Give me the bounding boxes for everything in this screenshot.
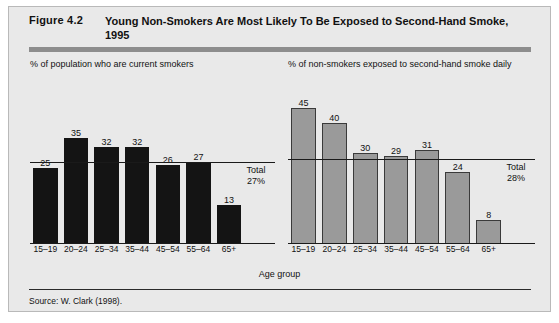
bar[interactable]: 29 bbox=[384, 156, 409, 244]
chart-panel-nonsmokers: % of non-smokers exposed to second-hand … bbox=[283, 59, 535, 259]
total-annotation-right: Total 28% bbox=[499, 162, 533, 184]
plot-area-left: 25353232262713 Total 27% bbox=[30, 79, 275, 244]
bar-value-label: 30 bbox=[354, 143, 377, 153]
bar[interactable]: 8 bbox=[476, 220, 501, 244]
x-tick-label: 20–24 bbox=[319, 244, 350, 258]
source-divider bbox=[29, 289, 531, 290]
x-tick-label: 25–34 bbox=[91, 244, 122, 258]
bar-value-label: 24 bbox=[446, 162, 469, 172]
bar[interactable]: 13 bbox=[217, 205, 242, 244]
x-tick-label: 35–44 bbox=[381, 244, 412, 258]
x-tick-label: 55–64 bbox=[442, 244, 473, 258]
bar[interactable]: 45 bbox=[291, 108, 316, 244]
total-value-left: 27% bbox=[239, 176, 273, 187]
bar-value-label: 25 bbox=[34, 158, 57, 168]
x-tick-label: 45–54 bbox=[412, 244, 443, 258]
total-annotation-left: Total 27% bbox=[239, 165, 273, 187]
x-tick-label: 45–54 bbox=[153, 244, 184, 258]
bar-slot: 29 bbox=[381, 99, 412, 244]
bar-value-label: 32 bbox=[95, 137, 118, 147]
total-value-right: 28% bbox=[499, 173, 533, 184]
bar-slot: 40 bbox=[319, 99, 350, 244]
total-label-left: Total bbox=[239, 165, 273, 176]
bar-value-label: 32 bbox=[126, 137, 149, 147]
header-divider bbox=[29, 47, 531, 52]
bar[interactable]: 27 bbox=[186, 162, 211, 244]
total-label-right: Total bbox=[499, 162, 533, 173]
bar-slot: 30 bbox=[350, 99, 381, 244]
bar-value-label: 26 bbox=[157, 155, 180, 165]
x-tick-label: 15–19 bbox=[30, 244, 61, 258]
figure-number: Figure 4.2 bbox=[29, 14, 83, 26]
x-tick-label: 65+ bbox=[473, 244, 504, 258]
bar-value-label: 13 bbox=[218, 195, 241, 205]
bar-slot: 31 bbox=[412, 99, 443, 244]
bar[interactable]: 35 bbox=[64, 138, 89, 244]
bar[interactable]: 40 bbox=[322, 123, 347, 244]
figure-title: Young Non-Smokers Are Most Likely To Be … bbox=[105, 14, 535, 42]
x-tick-labels-left: 15–1920–2425–3435–4445–5455–6465+ bbox=[30, 244, 275, 258]
bar-value-label: 27 bbox=[187, 152, 210, 162]
bar-slot: 25 bbox=[30, 99, 61, 244]
reference-line-left bbox=[30, 162, 275, 163]
bar-slot: 32 bbox=[122, 99, 153, 244]
bar-value-label: 29 bbox=[385, 146, 408, 156]
bar-value-label: 31 bbox=[416, 140, 439, 150]
x-tick-label: 15–19 bbox=[288, 244, 319, 258]
x-tick-label: 25–34 bbox=[350, 244, 381, 258]
bar[interactable]: 30 bbox=[353, 153, 378, 244]
bar[interactable]: 31 bbox=[415, 150, 440, 244]
bar[interactable]: 25 bbox=[33, 168, 58, 244]
x-tick-label: 55–64 bbox=[183, 244, 214, 258]
x-tick-labels-right: 15–1920–2425–3435–4445–5455–6465+ bbox=[288, 244, 535, 258]
chart-panel-smokers: % of population who are current smokers … bbox=[25, 59, 275, 259]
axis-title: Age group bbox=[9, 269, 550, 279]
bar-value-label: 35 bbox=[65, 128, 88, 138]
bar[interactable]: 24 bbox=[445, 172, 470, 245]
bar-slot: 45 bbox=[288, 99, 319, 244]
bar[interactable]: 26 bbox=[156, 165, 181, 244]
x-tick-label: 20–24 bbox=[61, 244, 92, 258]
x-tick-label: 35–44 bbox=[122, 244, 153, 258]
reference-line-right bbox=[288, 159, 535, 160]
panel-caption-left: % of population who are current smokers bbox=[30, 59, 194, 69]
figure-container: Figure 4.2 Young Non-Smokers Are Most Li… bbox=[8, 6, 551, 312]
bar-slot: 35 bbox=[61, 99, 92, 244]
bar-slot: 32 bbox=[91, 99, 122, 244]
bar-value-label: 40 bbox=[323, 113, 346, 123]
plot-area-right: 4540302931248 Total 28% bbox=[288, 79, 535, 244]
bar-slot: 24 bbox=[442, 99, 473, 244]
source-note: Source: W. Clark (1998). bbox=[29, 296, 122, 306]
bar-slot: 27 bbox=[183, 99, 214, 244]
bar-value-label: 8 bbox=[477, 210, 500, 220]
bar-group-right: 4540302931248 bbox=[288, 99, 535, 244]
x-tick-label: 65+ bbox=[214, 244, 245, 258]
panel-caption-right: % of non-smokers exposed to second-hand … bbox=[288, 59, 512, 69]
figure-header: Figure 4.2 Young Non-Smokers Are Most Li… bbox=[9, 7, 550, 51]
bar-slot: 26 bbox=[153, 99, 184, 244]
bar-value-label: 45 bbox=[292, 98, 315, 108]
